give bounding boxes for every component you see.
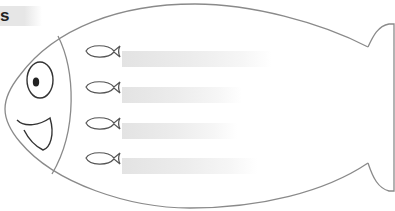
small-fish-icon-3 [86,118,120,129]
small-fish-icon-1 [86,46,120,57]
eye-pupil [33,78,39,87]
fish-body-outline [5,4,368,208]
gill-line [52,36,71,174]
eye-outline [27,62,53,98]
fish-worksheet: s [0,0,395,211]
fish-outline [0,0,395,211]
small-fish-icon-2 [86,82,120,93]
fish-tail-outline [368,24,394,191]
small-fish-icon-4 [86,153,120,164]
